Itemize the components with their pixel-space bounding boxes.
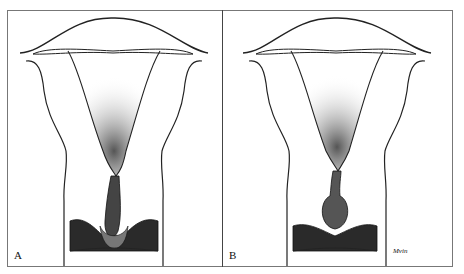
panel-a: A: [8, 11, 222, 266]
uterus-illustration-a: [8, 11, 222, 266]
uterus-illustration-b: [223, 11, 453, 266]
panel-b: B Mvin: [223, 11, 453, 266]
panel-label-b: B: [229, 249, 236, 261]
panel-label-a: A: [14, 249, 22, 261]
artist-signature: Mvin: [393, 247, 407, 255]
